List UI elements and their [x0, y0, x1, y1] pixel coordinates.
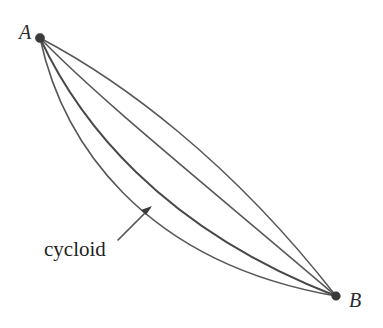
point-b-dot: [332, 292, 341, 301]
point-a-label: A: [17, 21, 32, 43]
figure-background: [0, 0, 383, 328]
figure-canvas: A B cycloid: [0, 0, 383, 328]
point-a-dot: [35, 33, 44, 42]
point-b-label: B: [349, 289, 361, 311]
cycloid-figure-svg: A B cycloid: [0, 0, 383, 328]
cycloid-annotation-label: cycloid: [44, 237, 106, 261]
